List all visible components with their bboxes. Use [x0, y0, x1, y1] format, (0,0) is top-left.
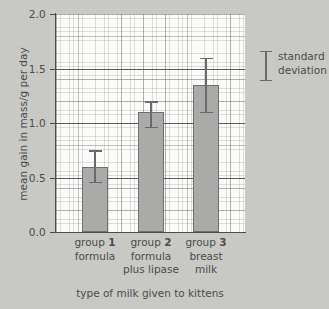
errorbar-cap-top-group-2 [145, 101, 158, 102]
y-axis-line [55, 13, 56, 233]
y-tick-1-0 [50, 123, 55, 124]
x-category-label-group-3: group 3 breast milk [168, 236, 244, 277]
errorbar-line-group-1 [94, 150, 95, 183]
x-category-line1-group-3: group 3 [168, 236, 244, 250]
y-tick-0-0 [50, 232, 55, 233]
y-tick-1-5 [50, 69, 55, 70]
legend-label: standard deviation [278, 49, 327, 77]
plot-area [56, 14, 245, 232]
x-axis-title: type of milk given to kittens [0, 287, 300, 299]
legend-label-line2: deviation [278, 63, 327, 77]
y-axis-title: mean gain in mass/g per day [17, 39, 29, 209]
errorbar-line-group-2 [150, 101, 151, 128]
legend-label-line1: standard [278, 49, 327, 63]
gridline-1-5 [56, 69, 245, 70]
errorbar-cap-bottom-group-3 [200, 112, 213, 113]
errorbar-legend-icon [260, 51, 272, 81]
y-tick-0-5 [50, 178, 55, 179]
errorbar-cap-bottom-group-1 [89, 182, 102, 183]
y-tick-2-0 [50, 14, 55, 15]
y-tick-label-2-0: 2.0 [6, 8, 46, 20]
errorbar-line-group-3 [205, 58, 206, 114]
x-category-line2-group-3: breast [168, 250, 244, 264]
bar-chart-figure: 0.0 0.5 1.0 1.5 2.0 mean gain in mass/g … [0, 0, 329, 309]
errorbar-cap-top-group-3 [200, 58, 213, 59]
x-category-line3-group-3: milk [168, 263, 244, 277]
errorbar-cap-bottom-group-2 [145, 127, 158, 128]
x-axis-line [55, 232, 246, 233]
bar-group-2 [138, 112, 164, 232]
y-tick-label-0-0: 0.0 [6, 226, 46, 238]
errorbar-cap-top-group-1 [89, 150, 102, 151]
